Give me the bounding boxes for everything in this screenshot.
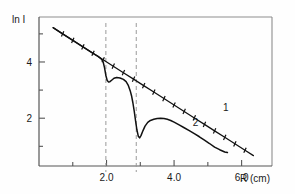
- y-tick-label-4: 4: [26, 57, 32, 68]
- x-tick-label-2.0: 2.0: [100, 172, 114, 183]
- series-2-annotation-label: 2: [193, 117, 199, 128]
- y-tick-label-2: 2: [26, 113, 32, 124]
- x-axis-title: R (cm): [240, 173, 270, 184]
- figure-container: 24 2.04.06.0 1 2 ln I R (cm): [0, 0, 295, 194]
- scientific-line-chart: 24 2.04.06.0 1 2 ln I R (cm): [0, 0, 295, 194]
- y-axis-title: ln I: [12, 14, 25, 25]
- chart-background: [0, 0, 295, 194]
- x-tick-label-4.0: 4.0: [167, 172, 181, 183]
- series-1-annotation-label: 1: [223, 102, 229, 113]
